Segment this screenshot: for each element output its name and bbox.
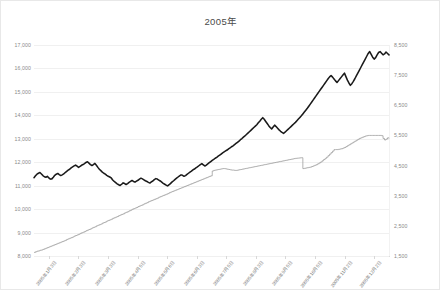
left-axis-tick-label: 12,000 xyxy=(15,159,31,165)
right-axis-tick-label: 3,500 xyxy=(394,193,407,199)
x-axis-tick-label: 2005年1月3日 xyxy=(34,259,57,287)
left-axis-tick-label: 10,000 xyxy=(15,206,31,212)
series-layer xyxy=(34,45,389,256)
series-line-volume xyxy=(34,135,389,252)
x-axis-tick-label: 2005年3月3日 xyxy=(93,259,116,287)
right-axis-tick-label: 4,500 xyxy=(394,163,407,169)
x-axis-tick-label: 2005年8月3日 xyxy=(241,259,264,287)
right-axis-labels: 8,5007,5006,5005,5004,5003,5002,5001,500 xyxy=(394,45,439,256)
plot-area xyxy=(34,45,389,256)
left-axis-tick-label: 17,000 xyxy=(15,42,31,48)
x-axis-tick-label: 2005年2月3日 xyxy=(64,259,87,287)
left-axis-tick-label: 16,000 xyxy=(15,65,31,71)
x-axis-tick-label: 2005年4月5日 xyxy=(123,259,146,287)
left-axis-labels: 17,00016,00015,00014,00013,00012,00011,0… xyxy=(1,45,31,256)
right-axis-tick-label: 1,500 xyxy=(394,253,407,259)
right-axis-tick-label: 7,500 xyxy=(394,72,407,78)
x-axis-tick-label: 2005年11月2日 xyxy=(329,259,354,288)
series-line-nikkei xyxy=(34,52,389,186)
left-axis-tick-label: 11,000 xyxy=(15,183,31,189)
x-axis-tick-label: 2005年7月5日 xyxy=(212,259,235,287)
chart-title: 2005年 xyxy=(1,14,440,28)
left-axis-tick-label: 9,000 xyxy=(18,230,31,236)
left-axis-tick-label: 8,000 xyxy=(18,253,31,259)
left-axis-tick-label: 15,000 xyxy=(15,89,31,95)
right-axis-tick-label: 5,500 xyxy=(394,132,407,138)
right-axis-tick-label: 8,500 xyxy=(394,42,407,48)
left-axis-tick-label: 14,000 xyxy=(15,112,31,118)
x-axis-tick-label: 2005年12月2日 xyxy=(358,259,383,289)
x-axis-tick-label: 2005年6月3日 xyxy=(182,259,205,287)
right-axis-tick-label: 2,500 xyxy=(394,223,407,229)
left-axis-tick-label: 13,000 xyxy=(15,136,31,142)
chart-container: 2005年 17,00016,00015,00014,00013,00012,0… xyxy=(0,0,440,290)
x-axis-tick-label: 2005年9月5日 xyxy=(271,259,294,287)
x-axis-tick-label: 2005年10月5日 xyxy=(299,259,324,289)
right-axis-tick-label: 6,500 xyxy=(394,102,407,108)
x-axis-labels: 2005年1月3日2005年2月3日2005年3月3日2005年4月5日2005… xyxy=(34,259,390,290)
x-axis-tick-label: 2005年5月6日 xyxy=(152,259,175,287)
right-axis-line xyxy=(389,45,390,256)
